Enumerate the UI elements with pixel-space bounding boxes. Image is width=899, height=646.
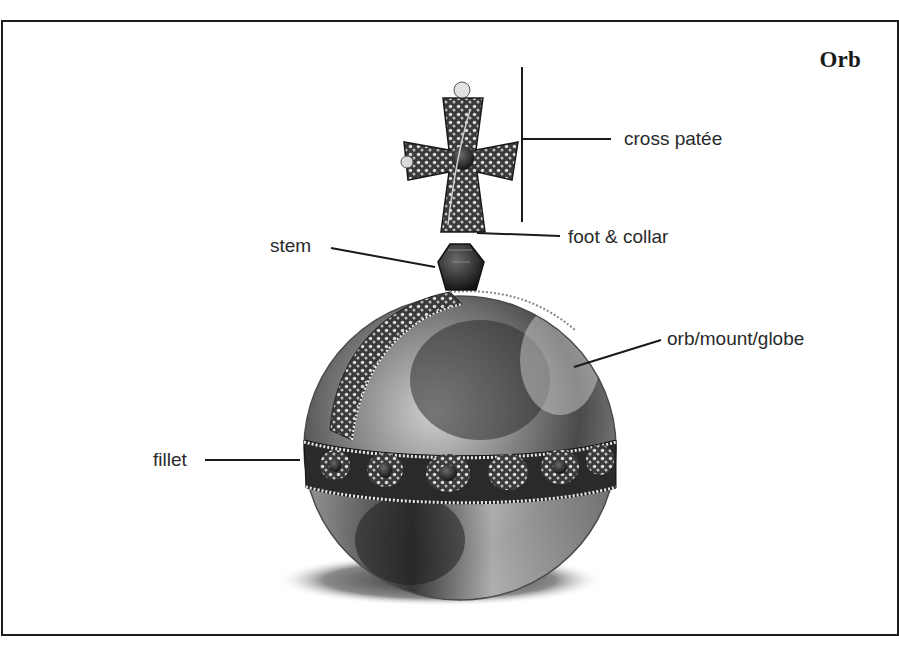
- label-stem: stem: [270, 236, 311, 255]
- label-cross-patee: cross patée: [624, 129, 722, 148]
- cross-patee-shape: [401, 82, 518, 232]
- foot-collar-leader: [477, 233, 560, 236]
- label-orb-mount-globe: orb/mount/globe: [667, 329, 804, 348]
- label-foot-collar: foot & collar: [568, 227, 668, 246]
- label-fillet: fillet: [153, 450, 187, 469]
- orb-stem-gem: [438, 244, 484, 290]
- orb-illustration: [0, 0, 899, 646]
- orb-mount-globe-leader: [574, 340, 661, 367]
- stem-leader: [331, 248, 435, 267]
